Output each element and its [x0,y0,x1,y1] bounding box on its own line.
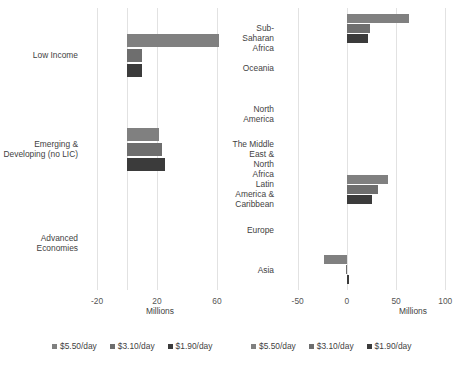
right-plot-area [278,8,460,290]
right-chart-panel: Sub-Saharan AfricaOceaniaNorth AmericaTh… [232,0,463,371]
legend-label: $1.90/day [176,341,213,351]
category-label: Sub-Saharan Africa [232,23,274,53]
x-tick-label-100: 100 [438,296,452,306]
bar-190day-6 [347,275,349,284]
legend-item[interactable]: $1.90/day [367,341,412,351]
legend-swatch-icon [52,344,57,349]
bar-550day-4 [347,175,388,184]
gridline-50 [396,8,397,290]
category-label: The Middle East & North Africa [232,139,274,179]
bar-310day-0 [127,49,142,62]
x-tick-label--50: -50 [292,296,304,306]
legend-label: $1.90/day [375,341,412,351]
legend-label: $5.50/day [60,341,97,351]
x-tick-label-50: 50 [391,296,400,306]
bar-190day-4 [347,195,373,204]
legend-item[interactable]: $5.50/day [251,341,296,351]
legend-item[interactable]: $3.10/day [309,341,354,351]
left-x-axis-title: Millions [146,306,174,316]
legend-item[interactable]: $1.90/day [168,341,213,351]
bar-550day-0 [347,14,409,23]
category-label: Low Income [2,50,78,60]
legend-item[interactable]: $5.50/day [52,341,97,351]
legend-swatch-icon [309,344,314,349]
bar-550day-1 [127,128,159,141]
legend-item[interactable]: $3.10/day [110,341,155,351]
legend-swatch-icon [168,344,173,349]
category-label: Emerging & Developing (no LIC) [2,139,78,159]
bar-190day-0 [127,64,142,77]
gridline--50 [298,8,299,290]
bar-310day-6 [346,265,347,274]
gridline-60 [217,8,218,290]
bar-310day-0 [347,24,371,33]
x-tick-label-0: 0 [345,296,350,306]
bar-550day-0 [127,34,219,47]
gridline--20 [97,8,98,290]
category-label: Advanced Economies [2,233,78,253]
legend-label: $5.50/day [259,341,296,351]
legend-swatch-icon [251,344,256,349]
bar-310day-1 [127,143,162,156]
right-x-axis-title: Millions [399,306,427,316]
gridline-100 [445,8,446,290]
category-label: Oceania [232,63,274,73]
x-tick-label-20: 20 [152,296,161,306]
bar-310day-4 [347,185,378,194]
legend-swatch-icon [367,344,372,349]
dual-bar-chart-figure: Low IncomeEmerging & Developing (no LIC)… [0,0,463,371]
bar-190day-0 [347,34,368,43]
left-legend: $5.50/day$3.10/day$1.90/day [52,341,212,351]
legend-label: $3.10/day [118,341,155,351]
x-tick-label--20: -20 [91,296,103,306]
x-tick-label-60: 60 [212,296,221,306]
category-label: Latin America & Caribbean [232,179,274,209]
bar-550day-6 [324,255,347,264]
legend-label: $3.10/day [317,341,354,351]
legend-swatch-icon [110,344,115,349]
right-legend: $5.50/day$3.10/day$1.90/day [251,341,411,351]
bar-190day-1 [127,158,165,171]
category-label: North America [232,104,274,124]
left-chart-panel: Low IncomeEmerging & Developing (no LIC)… [0,0,232,371]
left-plot-area [82,8,232,290]
category-label: Asia [232,265,274,275]
category-label: Europe [232,225,274,235]
gridline-0 [347,8,348,290]
